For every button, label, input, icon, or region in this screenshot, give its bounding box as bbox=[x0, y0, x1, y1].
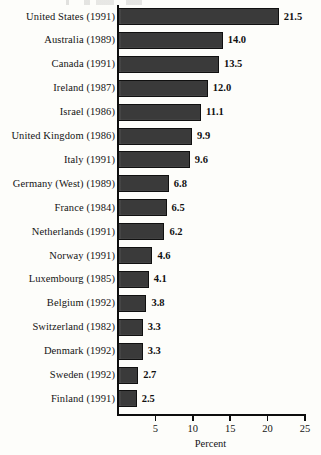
bar bbox=[118, 295, 146, 312]
bar bbox=[118, 271, 149, 288]
bar bbox=[118, 223, 164, 240]
bar bbox=[118, 8, 279, 25]
x-axis-tick-label: 25 bbox=[300, 424, 311, 435]
category-label: Australia (1989) bbox=[44, 35, 115, 46]
bar bbox=[118, 199, 167, 216]
category-label: Belgium (1992) bbox=[47, 298, 115, 309]
bar-row: Finland (1991)2.5 bbox=[0, 390, 321, 407]
bar bbox=[118, 80, 208, 97]
bar bbox=[118, 343, 143, 360]
category-label: Italy (1991) bbox=[64, 155, 115, 166]
bar-value-label: 3.3 bbox=[148, 322, 161, 333]
category-label: Israel (1986) bbox=[60, 107, 115, 118]
bar-row: Italy (1991)9.6 bbox=[0, 151, 321, 168]
category-label: Germany (West) (1989) bbox=[13, 179, 115, 190]
bar-row: Israel (1986)11.1 bbox=[0, 104, 321, 121]
bar bbox=[118, 175, 169, 192]
bar-value-label: 9.6 bbox=[195, 155, 208, 166]
category-label: Norway (1991) bbox=[49, 250, 115, 261]
bar-value-label: 6.2 bbox=[169, 226, 182, 237]
x-axis-tick bbox=[192, 416, 194, 421]
bar bbox=[118, 151, 190, 168]
bar bbox=[118, 319, 143, 336]
category-label: Canada (1991) bbox=[52, 59, 115, 70]
bar-row: Switzerland (1982)3.3 bbox=[0, 319, 321, 336]
bar-value-label: 2.5 bbox=[142, 394, 155, 405]
category-label: United States (1991) bbox=[26, 11, 115, 22]
category-label: United Kingdom (1986) bbox=[11, 131, 115, 142]
bar-row: Australia (1989)14.0 bbox=[0, 32, 321, 49]
bar bbox=[118, 56, 219, 73]
bar-value-label: 9.9 bbox=[197, 131, 210, 142]
bar bbox=[118, 32, 223, 49]
bar-value-label: 6.5 bbox=[172, 202, 185, 213]
x-axis-tick-label: 10 bbox=[188, 424, 199, 435]
bar bbox=[118, 367, 138, 384]
x-axis-line bbox=[117, 414, 306, 416]
bar-row: Germany (West) (1989)6.8 bbox=[0, 175, 321, 192]
bar-value-label: 3.3 bbox=[148, 346, 161, 357]
bar-value-label: 13.5 bbox=[224, 59, 242, 70]
x-axis-tick bbox=[304, 416, 306, 421]
category-label: Sweden (1992) bbox=[50, 370, 115, 381]
bar bbox=[118, 247, 152, 264]
bar-value-label: 3.8 bbox=[151, 298, 164, 309]
x-axis-tick bbox=[267, 416, 269, 421]
bar-row: Ireland (1987)12.0 bbox=[0, 80, 321, 97]
bar-row: Luxembourg (1985)4.1 bbox=[0, 271, 321, 288]
bar-row: Norway (1991)4.6 bbox=[0, 247, 321, 264]
bar-value-label: 21.5 bbox=[284, 11, 302, 22]
category-label: Ireland (1987) bbox=[53, 83, 115, 94]
bar-row: United Kingdom (1986)9.9 bbox=[0, 128, 321, 145]
bar-row: Netherlands (1991)6.2 bbox=[0, 223, 321, 240]
category-label: France (1984) bbox=[55, 202, 116, 213]
bar bbox=[118, 104, 201, 121]
bar-value-label: 14.0 bbox=[228, 35, 246, 46]
x-axis-tick bbox=[155, 416, 157, 421]
x-axis-tick bbox=[229, 416, 231, 421]
bar-row: Canada (1991)13.5 bbox=[0, 56, 321, 73]
bar-value-label: 4.1 bbox=[154, 274, 167, 285]
x-axis-tick-label: 15 bbox=[225, 424, 236, 435]
bar-chart-figure: United States (1991)21.5Australia (1989)… bbox=[0, 0, 321, 455]
category-label: Finland (1991) bbox=[51, 394, 115, 405]
page-scan-artifact bbox=[62, 0, 182, 5]
x-axis-tick-label: 20 bbox=[262, 424, 273, 435]
bar bbox=[118, 128, 192, 145]
category-label: Switzerland (1982) bbox=[32, 322, 115, 333]
bar-value-label: 4.6 bbox=[157, 250, 170, 261]
bar-row: Denmark (1992)3.3 bbox=[0, 343, 321, 360]
bar-value-label: 2.7 bbox=[143, 370, 156, 381]
bar-value-label: 12.0 bbox=[213, 83, 231, 94]
category-label: Denmark (1992) bbox=[44, 346, 115, 357]
bar-value-label: 11.1 bbox=[206, 107, 224, 118]
bar-row: France (1984)6.5 bbox=[0, 199, 321, 216]
category-label: Luxembourg (1985) bbox=[29, 274, 115, 285]
x-axis-tick-label: 5 bbox=[153, 424, 158, 435]
y-axis-line bbox=[117, 5, 119, 414]
bar-row: Sweden (1992)2.7 bbox=[0, 367, 321, 384]
bar bbox=[118, 390, 137, 407]
bar-value-label: 6.8 bbox=[174, 179, 187, 190]
bar-row: Belgium (1992)3.8 bbox=[0, 295, 321, 312]
bar-row: United States (1991)21.5 bbox=[0, 8, 321, 25]
x-axis-title: Percent bbox=[195, 439, 227, 450]
category-label: Netherlands (1991) bbox=[32, 226, 115, 237]
